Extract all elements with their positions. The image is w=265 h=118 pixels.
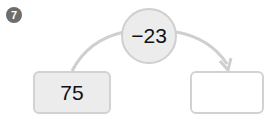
start-value-box: 75	[33, 71, 111, 114]
connector-in	[72, 32, 124, 71]
answer-box[interactable]	[190, 71, 264, 114]
connector-out	[176, 32, 227, 64]
start-value: 75	[60, 81, 83, 105]
operation-label: −23	[131, 24, 167, 48]
operation-circle: −23	[121, 8, 177, 64]
